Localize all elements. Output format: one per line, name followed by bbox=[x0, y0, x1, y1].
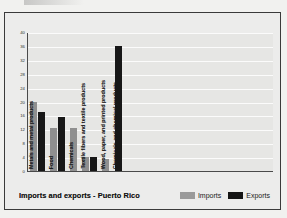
bar-group: Textile fibers and textile products bbox=[82, 33, 97, 171]
figure-frame: 0481216202428323640 Metals and metal pro… bbox=[4, 12, 281, 210]
y-axis-tick-label: 28 bbox=[20, 73, 25, 77]
bar-group: Chemicals bbox=[70, 33, 77, 171]
legend-item: Imports bbox=[180, 192, 221, 199]
bar-exports bbox=[90, 157, 97, 171]
chart-page: 0481216202428323640 Metals and metal pro… bbox=[0, 0, 287, 218]
legend-item: Exports bbox=[228, 192, 270, 199]
chart-title: Imports and exports - Puerto Rico bbox=[19, 191, 140, 200]
bar-group: Wood, paper, and printed products bbox=[102, 33, 109, 171]
legend-swatch-imports bbox=[180, 192, 195, 199]
plot-area: 0481216202428323640 Metals and metal pro… bbox=[27, 33, 273, 172]
y-axis-tick-label: 24 bbox=[20, 86, 25, 90]
y-axis-tick-label: 40 bbox=[20, 31, 25, 35]
y-axis-tick-label: 4 bbox=[23, 156, 25, 160]
category-label: Chemicals bbox=[69, 142, 74, 169]
bar-exports bbox=[58, 117, 65, 171]
bar-exports bbox=[38, 112, 45, 171]
y-axis-tick-label: 32 bbox=[20, 59, 25, 63]
chart-legend: ImportsExports bbox=[180, 192, 270, 199]
legend-swatch-exports bbox=[228, 192, 243, 199]
plot-wrapper: 0481216202428323640 Metals and metal pro… bbox=[27, 33, 273, 172]
legend-label: Exports bbox=[246, 192, 270, 199]
y-axis-tick-label: 0 bbox=[23, 170, 25, 174]
chart-footer: Imports and exports - Puerto Rico Import… bbox=[19, 191, 270, 200]
bar-group: Metals and metal products bbox=[30, 33, 45, 171]
y-axis-tick-label: 16 bbox=[20, 114, 25, 118]
y-axis-tick-label: 8 bbox=[23, 142, 25, 146]
category-label: Metals and metal products bbox=[29, 101, 34, 169]
category-label: Textile fibers and textile products bbox=[81, 83, 86, 169]
scan-artifact bbox=[24, 0, 84, 5]
legend-label: Imports bbox=[198, 192, 221, 199]
y-axis-tick-label: 36 bbox=[20, 45, 25, 49]
y-axis-tick-label: 20 bbox=[20, 100, 25, 104]
bar-groups: Metals and metal productsFoodChemicalsTe… bbox=[28, 33, 273, 171]
bar-group: Food bbox=[50, 33, 65, 171]
category-label: Chemicals and chemical products bbox=[113, 82, 118, 169]
bar-group: Chemicals and chemical products bbox=[114, 33, 122, 171]
y-axis-tick-label: 12 bbox=[20, 128, 25, 132]
category-label: Wood, paper, and printed products bbox=[101, 80, 106, 169]
category-label: Food bbox=[49, 156, 54, 169]
